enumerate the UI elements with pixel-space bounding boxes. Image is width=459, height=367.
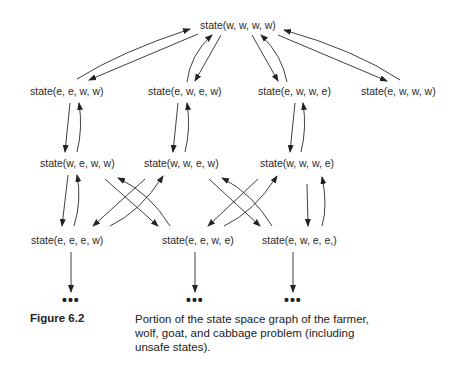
node-r2-1: state(w, e, w, w) — [40, 157, 115, 169]
edge-r2_3-to-r3_2 — [208, 179, 258, 226]
edge-r2_2-to-r3_3 — [209, 179, 260, 226]
continuation-dots-2: ••• — [186, 292, 204, 308]
edge-r1_1-to-r2_1 — [65, 103, 70, 152]
edge-r1_2-to-root — [187, 35, 212, 82]
continuation-dots-1: ••• — [62, 292, 80, 308]
edge-r2_1-to-r3_2 — [105, 179, 158, 226]
edge-r2_1-to-r3_1 — [62, 175, 68, 226]
edge-r2_3-to-r3_3 — [307, 184, 308, 226]
edge-r2_2-to-r1_2 — [185, 103, 189, 152]
node-r2-3: state(w, w, w, e) — [260, 157, 334, 169]
node-r2-2: state(w, w, e, w) — [144, 157, 219, 169]
edge-root-to-r1_2 — [195, 35, 221, 81]
edge-root-to-r1_1 — [89, 34, 198, 80]
figure-label: Figure 6.2 — [30, 312, 84, 324]
edge-root-to-r1_4 — [278, 35, 387, 81]
edge-r3_1-to-r2_1 — [74, 175, 79, 226]
node-r3-2: state(e, e, w, e) — [162, 234, 234, 246]
edge-r2_1-to-r1_1 — [77, 103, 81, 152]
edge-r1_3-to-r2_3 — [290, 103, 295, 152]
node-r1-3: state(e, w, w, e) — [258, 85, 331, 97]
edge-r2_3-to-r1_3 — [301, 103, 305, 152]
node-root: state(w, w, w, w) — [200, 19, 276, 31]
node-r1-2: state(e, w, e, w) — [148, 85, 222, 97]
edge-r3_2-to-r2_1 — [118, 178, 170, 226]
edge-r3_3-to-r2_2 — [222, 178, 272, 226]
state-graph-edges — [0, 0, 459, 310]
edge-r1_2-to-r2_2 — [173, 103, 178, 152]
edge-r1_4-to-root — [284, 30, 400, 80]
node-r3-1: state(e, e, e, w) — [31, 234, 103, 246]
node-r1-4: state(e, w, w, w) — [361, 85, 436, 97]
continuation-dots-3: ••• — [284, 292, 302, 308]
edge-r1_1-to-root — [77, 29, 190, 79]
figure-caption-text: Portion of the state space graph of the … — [135, 312, 375, 354]
edge-r2_2-to-r3_1 — [93, 179, 145, 226]
edge-r3_3-to-r2_3 — [322, 177, 325, 226]
edge-r3_1-to-r2_2 — [110, 176, 163, 226]
edge-root-to-r1_3 — [252, 35, 278, 81]
node-r1-1: state(e, e, w, w) — [30, 85, 104, 97]
node-r3-3: state(e, w, e, e,) — [262, 234, 337, 246]
